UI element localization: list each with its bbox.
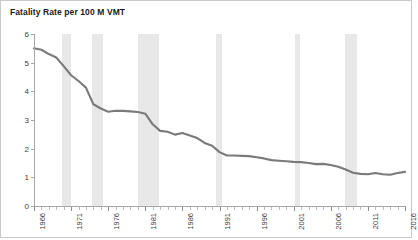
x-axis-tick-mark — [153, 207, 154, 210]
x-axis-tick-mark — [160, 207, 161, 210]
x-axis-tick-mark — [309, 207, 310, 210]
x-axis-tick-mark — [64, 207, 65, 210]
y-axis-tick-mark — [31, 91, 34, 92]
x-axis-tick-mark — [398, 207, 399, 210]
y-axis-tick-label: 3 — [5, 116, 29, 125]
x-axis-tick-label: 2016 — [409, 213, 418, 230]
x-axis-tick-mark — [375, 207, 376, 210]
x-axis-tick-mark — [101, 207, 102, 210]
chart-title: Fatality Rate per 100 M VMT — [10, 7, 125, 17]
x-axis-tick-mark — [34, 207, 35, 211]
x-axis-tick-mark — [271, 207, 272, 210]
x-axis-tick-mark — [279, 207, 280, 210]
chart-container: Fatality Rate per 100 M VMT 0123456 1966… — [0, 0, 412, 238]
x-axis-tick-mark — [286, 207, 287, 210]
y-axis-tick-label: 1 — [5, 173, 29, 182]
x-axis-tick-mark — [212, 207, 213, 210]
y-axis-tick-mark — [31, 177, 34, 178]
x-axis-tick-mark — [175, 207, 176, 210]
x-axis-tick-mark — [197, 207, 198, 210]
x-axis-tick-mark — [257, 207, 258, 211]
x-axis-tick-label: 1971 — [75, 213, 84, 230]
x-axis-tick-label: 1981 — [149, 213, 158, 230]
x-axis-tick-mark — [123, 207, 124, 210]
x-axis-tick-mark — [383, 207, 384, 210]
fatality-rate-series — [34, 34, 405, 206]
x-axis-tick-mark — [390, 207, 391, 210]
plot-area — [34, 34, 405, 206]
x-axis-tick-mark — [368, 207, 369, 211]
x-axis-tick-label: 2011 — [371, 213, 380, 229]
x-axis-tick-label: 2006 — [334, 213, 343, 230]
x-axis-tick-mark — [316, 207, 317, 210]
x-axis-tick-mark — [360, 207, 361, 210]
y-axis-tick-mark — [31, 120, 34, 121]
x-axis-tick-mark — [145, 207, 146, 211]
x-axis-tick-mark — [190, 207, 191, 210]
x-axis-tick-mark — [323, 207, 324, 210]
x-axis-tick-mark — [138, 207, 139, 210]
y-axis-line — [34, 34, 35, 207]
x-axis-tick-mark — [405, 207, 406, 211]
x-axis-tick-mark — [353, 207, 354, 210]
x-axis-tick-mark — [205, 207, 206, 210]
x-axis-tick-mark — [242, 207, 243, 210]
y-axis-tick-label: 4 — [5, 87, 29, 96]
x-axis-tick-mark — [249, 207, 250, 210]
x-axis-tick-mark — [93, 207, 94, 210]
x-axis-tick-mark — [227, 207, 228, 210]
y-axis-tick-mark — [31, 63, 34, 64]
x-axis-tick-mark — [108, 207, 109, 211]
x-axis-tick-mark — [301, 207, 302, 210]
x-axis-tick-mark — [182, 207, 183, 211]
x-axis-tick-mark — [79, 207, 80, 210]
x-axis-tick-mark — [41, 207, 42, 210]
y-axis-tick-label: 2 — [5, 144, 29, 153]
x-axis-tick-mark — [86, 207, 87, 210]
x-axis-tick-label: 1966 — [38, 213, 47, 230]
y-axis-tick-label: 5 — [5, 58, 29, 67]
x-axis-tick-mark — [116, 207, 117, 210]
x-axis-tick-label: 2001 — [297, 213, 306, 230]
x-axis-tick-mark — [294, 207, 295, 211]
x-axis-tick-mark — [338, 207, 339, 210]
x-axis-tick-mark — [234, 207, 235, 210]
y-axis-tick-mark — [31, 34, 34, 35]
x-axis-tick-mark — [264, 207, 265, 210]
y-axis-tick-mark — [31, 149, 34, 150]
x-axis-tick-mark — [220, 207, 221, 211]
x-axis-tick-mark — [49, 207, 50, 210]
x-axis-tick-mark — [168, 207, 169, 210]
y-axis: 0123456 — [1, 34, 29, 207]
x-axis-tick-label: 1976 — [112, 213, 121, 230]
x-axis-tick-label: 1986 — [186, 213, 195, 230]
x-axis-tick-mark — [331, 207, 332, 211]
x-axis-tick-mark — [346, 207, 347, 210]
y-axis-tick-label: 6 — [5, 30, 29, 39]
y-axis-tick-label: 0 — [5, 202, 29, 211]
series-line — [34, 48, 405, 174]
x-axis-tick-label: 1996 — [260, 213, 269, 230]
x-axis-tick-mark — [56, 207, 57, 210]
x-axis-tick-label: 1991 — [223, 213, 232, 230]
x-axis-tick-mark — [71, 207, 72, 211]
x-axis-tick-mark — [130, 207, 131, 210]
